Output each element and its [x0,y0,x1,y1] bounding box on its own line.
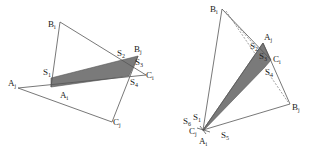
label-left-S3: S3 [135,57,143,68]
label-right-S5: S5 [221,130,229,141]
right-figure: Bi Aj S2 S3 Ci S4 Bj S1 S6 Cj S5 Ai [183,4,300,147]
label-right-S4: S4 [265,67,273,78]
label-right-Bi: Bi [210,4,218,15]
left-figure: Bi S2 Bj S3 Ci S4 S1 Aj Ai Cj [8,19,154,128]
label-right-Bj: Bj [292,102,300,113]
label-left-Bj: Bj [134,44,142,55]
label-left-S4: S4 [130,77,138,88]
left-intersection-region [51,56,138,87]
label-left-Bi: Bi [48,19,56,30]
label-right-Ci: Ci [273,54,281,65]
triangle-intersection-diagram: Bi S2 Bj S3 Ci S4 S1 Aj Ai Cj Bi Aj S2 S… [0,0,309,155]
label-left-Ci: Ci [146,70,154,81]
label-right-S2: S2 [250,41,258,52]
label-right-Aj: Aj [264,32,273,43]
label-left-Aj: Aj [8,78,17,89]
label-left-Ai: Ai [60,90,69,101]
label-right-Ai: Ai [199,136,208,147]
label-right-Cj: Cj [189,126,197,137]
label-left-S1: S1 [43,67,51,78]
label-left-Cj: Cj [113,117,121,128]
label-right-S1: S1 [193,112,201,123]
label-left-S2: S2 [117,48,125,59]
